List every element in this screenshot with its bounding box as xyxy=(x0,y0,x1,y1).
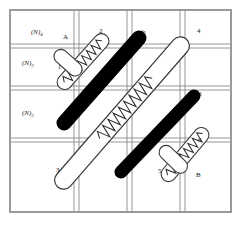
label-A: A xyxy=(63,34,68,41)
label-1: 1 xyxy=(58,64,61,70)
label-4: 4 xyxy=(197,28,201,35)
label-5: 5 xyxy=(158,168,162,175)
label-a: a xyxy=(60,118,63,124)
label-3: 3 xyxy=(56,167,60,174)
label-6: 6 xyxy=(198,137,202,144)
label-B: B xyxy=(196,172,201,179)
label-c: c xyxy=(117,168,120,175)
side-label-2: (N)3 xyxy=(22,60,34,68)
label-d: d xyxy=(198,91,202,98)
figure-container: (N)4 (N)3 (N)2 A 1 2 b 4 a d 6 3 c 5 B xyxy=(0,0,245,226)
side-label-1: (N)4 xyxy=(31,29,43,37)
label-2: 2 xyxy=(99,28,103,35)
label-b: b xyxy=(142,29,146,36)
side-label-3: (N)2 xyxy=(22,110,34,118)
